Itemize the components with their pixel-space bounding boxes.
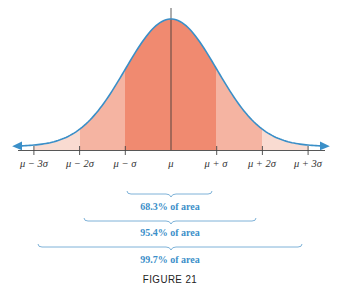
area-label-68: 68.3% of area <box>140 201 200 212</box>
normal-distribution-figure <box>0 0 339 288</box>
bracket-95 <box>84 218 256 224</box>
tick-label-minus-2-sigma: μ − 2σ <box>66 158 94 169</box>
area-brackets <box>38 191 302 250</box>
tick-label-plus-2-sigma: μ + 2σ <box>248 158 276 169</box>
tick-label-minus-3-sigma: μ − 3σ <box>20 158 48 169</box>
tick-label-minus-1-sigma: μ − σ <box>114 158 137 169</box>
bracket-99 <box>38 244 302 250</box>
figure-caption: FIGURE 21 <box>142 273 196 285</box>
area-label-99: 99.7% of area <box>140 254 200 265</box>
region-1-sigma <box>125 0 216 150</box>
tick-label-plus-3-sigma: μ + 3σ <box>294 158 322 169</box>
area-label-95: 95.4% of area <box>140 227 200 238</box>
tick-label-plus-1-sigma: μ + σ <box>205 158 228 169</box>
tick-label-mu: μ <box>168 158 173 169</box>
bracket-68 <box>127 191 212 197</box>
